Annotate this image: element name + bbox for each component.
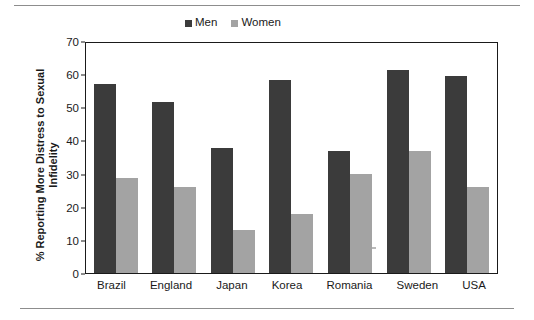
x-axis-label-usa: USA: [462, 279, 486, 291]
y-tick-label-20: 20: [66, 202, 79, 214]
bar-group-romania: [328, 44, 372, 273]
y-tick-mark-60: [81, 75, 85, 76]
bar-group-usa: [445, 44, 489, 273]
bar-sweden-women: [409, 151, 431, 272]
bar-usa-women: [467, 187, 489, 272]
top-divider-rule: [14, 5, 520, 6]
bar-groups: [87, 44, 497, 273]
x-axis-label-brazil: Brazil: [97, 279, 126, 291]
y-tick-mark-30: [81, 174, 85, 175]
bar-romania-women: [350, 174, 372, 272]
y-tick-label-50: 50: [66, 102, 79, 114]
x-axis-label-romania: Romania: [326, 279, 372, 291]
bar-group-england: [152, 44, 196, 273]
bottom-divider-rule: [20, 308, 514, 309]
y-axis-title-line-1: % Reporting More Distress to Sexual: [34, 69, 46, 262]
y-tick-mark-20: [81, 207, 85, 208]
bar-group-brazil: [94, 44, 138, 273]
y-tick-mark-70: [81, 42, 85, 43]
chart-legend: Men Women: [185, 16, 281, 30]
y-axis-title-line-2: Infidelity: [47, 142, 59, 187]
y-tick-label-60: 60: [66, 69, 79, 81]
bar-group-sweden: [387, 44, 431, 273]
x-axis-label-sweden: Sweden: [397, 279, 439, 291]
legend-label-men: Men: [195, 17, 217, 29]
bar-group-korea: [269, 44, 313, 273]
x-axis-label-japan: Japan: [216, 279, 247, 291]
chart-figure: Men Women % Reporting More Distress to S…: [0, 0, 534, 320]
bar-group-japan: [211, 44, 255, 273]
y-tick-label-30: 30: [66, 169, 79, 181]
y-axis-title: % Reporting More Distress to Sexual Infi…: [34, 40, 60, 290]
scan-artifact-speck: [372, 247, 376, 249]
bar-brazil-women: [116, 178, 138, 273]
bar-japan-women: [233, 230, 255, 273]
legend-item-men: Men: [185, 17, 217, 29]
x-axis-label-korea: Korea: [272, 279, 303, 291]
bar-sweden-men: [387, 70, 409, 273]
bar-england-women: [174, 187, 196, 272]
x-axis-labels: BrazilEnglandJapanKoreaRomaniaSwedenUSA: [85, 279, 498, 291]
y-tick-mark-10: [81, 240, 85, 241]
legend-swatch-men-icon: [185, 20, 192, 27]
y-tick-label-40: 40: [66, 135, 79, 147]
y-tick-mark-40: [81, 141, 85, 142]
bar-korea-women: [291, 214, 313, 273]
legend-item-women: Women: [231, 17, 280, 29]
bar-romania-men: [328, 151, 350, 272]
y-tick-label-10: 10: [66, 235, 79, 247]
y-tick-mark-50: [81, 108, 85, 109]
y-tick-mark-0: [81, 274, 85, 275]
y-tick-label-70: 70: [66, 36, 79, 48]
bar-korea-men: [269, 80, 291, 273]
bar-usa-men: [445, 76, 467, 272]
plot-area: 010203040506070: [85, 42, 498, 274]
legend-swatch-women-icon: [231, 20, 238, 27]
bar-england-men: [152, 102, 174, 272]
legend-label-women: Women: [241, 17, 280, 29]
bar-brazil-men: [94, 84, 116, 272]
bar-japan-men: [211, 148, 233, 272]
x-axis-label-england: England: [150, 279, 192, 291]
y-tick-label-0: 0: [73, 268, 79, 280]
